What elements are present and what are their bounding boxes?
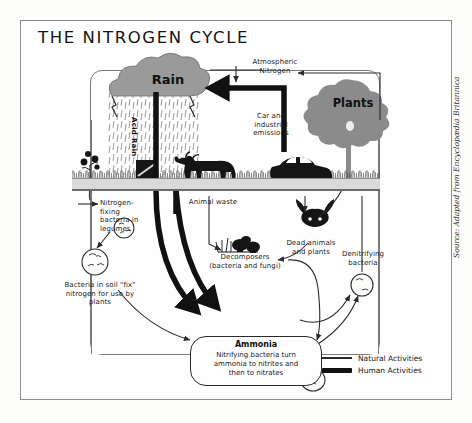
legend: Natural Activities Human Activities [322, 352, 446, 376]
nitrogen-cycle-figure: THE NITROGEN CYCLE [0, 0, 472, 423]
legend-label-natural: Natural Activities [358, 354, 422, 363]
animal-waste-label: Animal waste [182, 198, 244, 207]
acid-rain-label: Acid Rain [130, 117, 138, 157]
ammonia-title: Ammonia [190, 340, 322, 349]
legend-item-human: Human Activities [322, 364, 446, 376]
plants-label: Plants [318, 96, 388, 110]
denitrifying-bacteria-label: Denitrifying bacteria [336, 250, 390, 267]
decomposers-label: Decomposers (bacteria and fungi) [200, 253, 290, 270]
legend-label-human: Human Activities [358, 366, 422, 375]
ammonia-description: Nitrifying bacteria turn ammonia to nitr… [194, 351, 318, 378]
dead-animals-plants-label: Dead animals and plants [282, 239, 340, 256]
natural-activities-line-swatch [322, 357, 352, 358]
bacteria-in-soil-label: Bacteria in soil "fix" nitrogen for use … [56, 281, 144, 307]
rain-label: Rain [132, 72, 204, 87]
soil-line [72, 189, 380, 191]
legend-item-natural: Natural Activities [322, 352, 446, 364]
atmospheric-nitrogen-label: Atmospheric Nitrogen [242, 58, 308, 75]
figure-title: THE NITROGEN CYCLE [38, 28, 249, 47]
human-activities-line-swatch [322, 368, 352, 373]
nitrogen-fixing-bacteria-label: Nitrogen- fixing bacteria in legumes [100, 199, 156, 233]
source-credit: Source: Adapted from Encyclopædia Britan… [452, 76, 461, 258]
car-industrial-emissions-label: Car and industrial emissions [248, 112, 294, 138]
